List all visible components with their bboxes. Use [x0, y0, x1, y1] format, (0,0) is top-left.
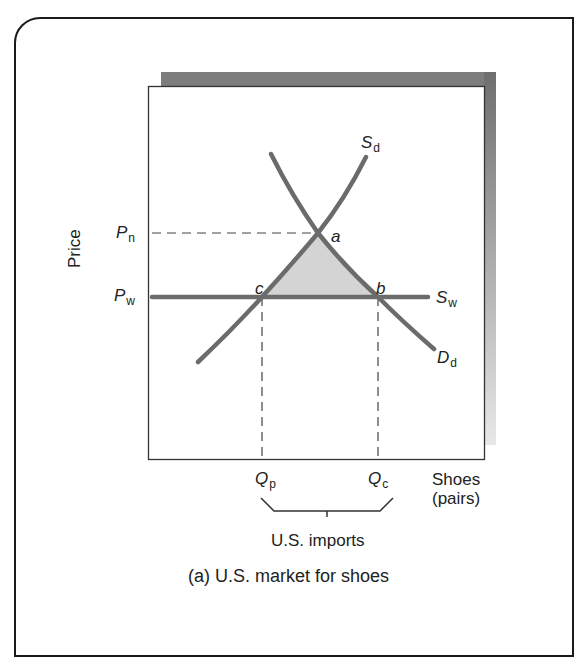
pw-main: P: [114, 286, 125, 305]
sd-label: Sd: [361, 134, 380, 151]
x-axis-label-line2: (pairs): [432, 490, 480, 507]
sd-main: S: [361, 133, 372, 152]
sd-sub: d: [373, 141, 380, 155]
frame-shadow-right: [484, 72, 496, 445]
qc-label: Qc: [368, 470, 388, 487]
sw-sub: w: [448, 296, 457, 310]
qp-label: Qp: [255, 470, 276, 487]
y-axis-label: Price: [66, 229, 83, 268]
point-a-label: a: [331, 228, 340, 245]
pw-label: Pw: [114, 287, 135, 304]
qp-main: Q: [255, 469, 268, 488]
qc-main: Q: [368, 469, 381, 488]
point-c-label: c: [255, 280, 264, 297]
pw-sub: w: [126, 294, 135, 308]
frame-shadow-top: [161, 72, 496, 86]
qc-sub: c: [382, 477, 388, 491]
x-axis-label-line1: Shoes: [432, 471, 480, 488]
imports-brace: [261, 498, 393, 517]
sw-label: Sw: [436, 289, 457, 306]
chart-caption: (a) U.S. market for shoes: [188, 567, 389, 585]
pn-label: Pn: [116, 224, 135, 241]
dd-main: D: [437, 348, 449, 367]
pn-sub: n: [128, 231, 135, 245]
point-b-label: b: [376, 280, 385, 297]
dd-label: Dd: [437, 349, 457, 366]
imports-label: U.S. imports: [271, 532, 365, 549]
sw-main: S: [436, 288, 447, 307]
dd-sub: d: [450, 356, 457, 370]
qp-sub: p: [269, 477, 276, 491]
pn-main: P: [116, 223, 127, 242]
